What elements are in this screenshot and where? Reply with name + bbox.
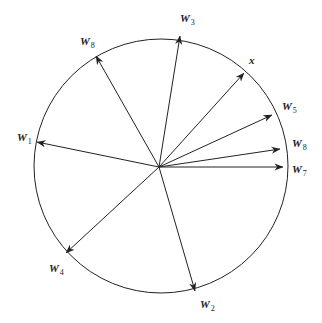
vector-label-w5: W5	[282, 100, 297, 115]
vector-arrow-w8b	[159, 149, 280, 167]
vector-arrow-w5	[159, 115, 272, 167]
vector-arrow-w2	[159, 167, 195, 291]
labels-group: W1W8W3xW5W8W7W4W2	[17, 12, 307, 313]
vector-label-w2: W2	[200, 298, 215, 313]
vector-arrow-w8a	[96, 56, 159, 167]
vector-label-x: x	[248, 54, 255, 66]
vector-label-w8a: W8	[80, 35, 95, 50]
vector-arrow-w4	[66, 167, 159, 253]
vector-label-w7: W7	[292, 163, 307, 178]
vector-label-w8b: W8	[292, 137, 307, 152]
vector-label-w4: W4	[49, 262, 64, 277]
vector-label-w3: W3	[180, 12, 195, 27]
vector-label-w1: W1	[17, 131, 32, 146]
diagram-canvas: W1W8W3xW5W8W7W4W2	[0, 0, 322, 323]
vector-arrow-w1	[37, 142, 159, 167]
vector-diagram: W1W8W3xW5W8W7W4W2	[0, 0, 322, 323]
